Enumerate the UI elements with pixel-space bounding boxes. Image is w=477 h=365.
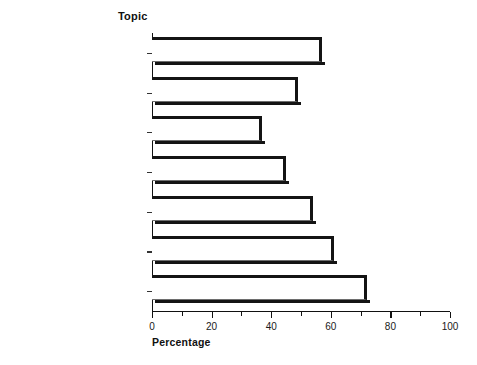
x-axis-tick-major: [152, 312, 153, 318]
y-axis-tick: [147, 212, 152, 213]
bar-row: [152, 73, 450, 113]
y-axis-tick: [147, 291, 152, 292]
bar: [152, 77, 298, 102]
bar: [152, 196, 313, 221]
bar-shadow: [155, 261, 337, 264]
bar-row: [152, 112, 450, 152]
x-axis-tick-major: [450, 312, 451, 318]
y-axis-tick: [147, 132, 152, 133]
x-axis-tick-label: 40: [266, 321, 277, 332]
bar-row: [152, 192, 450, 232]
x-axis-tick-label: 100: [442, 321, 459, 332]
x-axis-tick-major: [212, 312, 213, 318]
bar: [152, 156, 286, 181]
bar-row: [152, 271, 450, 311]
plot-area: 020406080100 Palliative Carea forChronic…: [152, 33, 450, 311]
x-axis-tick-label: 60: [325, 321, 336, 332]
x-axis-tick-minor: [301, 312, 302, 316]
x-axis-tick-label: 0: [149, 321, 155, 332]
bar: [152, 275, 367, 300]
value-axis-title: Percentage: [152, 336, 211, 348]
y-axis-tick: [147, 172, 152, 173]
bar: [152, 236, 334, 261]
bar-shadow: [155, 300, 370, 303]
bar-row: [152, 232, 450, 272]
y-axis-tick: [147, 93, 152, 94]
x-axis-tick-label: 80: [385, 321, 396, 332]
bar-shadow: [155, 221, 316, 224]
bar-shadow: [155, 102, 301, 105]
bar-row: [152, 33, 450, 73]
x-axis-tick-minor: [182, 312, 183, 316]
x-axis-tick-minor: [241, 312, 242, 316]
bar-shadow: [155, 181, 289, 184]
x-axis-tick-major: [271, 312, 272, 318]
bar-shadow: [155, 141, 265, 144]
x-axis-tick-major: [331, 312, 332, 318]
bar-shadow: [155, 62, 325, 65]
category-axis-title: Topic: [118, 10, 148, 22]
x-axis-tick-minor: [420, 312, 421, 316]
bar: [152, 116, 262, 141]
y-axis-tick: [147, 53, 152, 54]
y-axis-tick: [147, 251, 152, 252]
x-axis-tick-minor: [361, 312, 362, 316]
x-axis-tick-label: 20: [206, 321, 217, 332]
bar: [152, 37, 322, 62]
x-axis-tick-major: [390, 312, 391, 318]
bar-chart-figure: Topic 020406080100 Palliative Carea forC…: [0, 0, 477, 365]
bar-row: [152, 152, 450, 192]
